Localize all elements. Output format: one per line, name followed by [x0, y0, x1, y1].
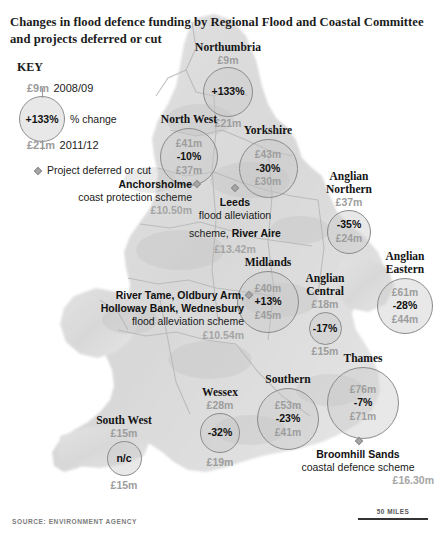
- region-anglian-northern-pct: -35%: [337, 218, 362, 232]
- region-midlands-pct: +13%: [254, 295, 281, 309]
- legend-before-row: £9m 2008/09: [27, 78, 93, 96]
- project-leeds-name: Leeds: [172, 196, 298, 209]
- region-northumbria-before: £9m: [182, 54, 274, 67]
- region-wessex-name: Wessex: [180, 386, 260, 399]
- region-thames-bubble: £76m -7% £71m: [327, 367, 399, 439]
- region-anglian-northern-name2: Northern: [312, 183, 386, 196]
- region-southern-name: Southern: [242, 373, 334, 386]
- legend-project-label: Project deferred or cut: [47, 164, 151, 176]
- region-yorkshire-bubble: £43m -30% £30m: [239, 139, 298, 198]
- region-southern-pct: -23%: [276, 412, 301, 426]
- region-thames-pct: -7%: [354, 396, 373, 410]
- legend-before-value: £9m: [27, 82, 49, 94]
- region-wessex-after: £19m: [180, 456, 260, 469]
- project-leeds[interactable]: Leeds flood alleviation scheme, River Ai…: [172, 196, 298, 256]
- region-anglian-eastern-before: £61m: [392, 286, 418, 299]
- legend-after-year: 2011/12: [60, 139, 99, 151]
- region-anglian-central-name2: Central: [290, 285, 360, 298]
- region-anglian-northern-name1: Anglian: [312, 170, 386, 183]
- region-thames-name: Thames: [317, 352, 409, 365]
- region-north-west-pct: -10%: [177, 150, 202, 164]
- project-anchorsholme-name: Anchorsholme: [42, 178, 192, 191]
- region-north-west-before: £41m: [176, 137, 202, 150]
- project-leeds-desc-line2: scheme, River Aire: [172, 222, 298, 242]
- region-anglian-eastern-pct: -28%: [393, 299, 418, 313]
- region-anglian-eastern-bubble: £61m -28% £44m: [377, 278, 433, 334]
- project-leeds-desc2: scheme,: [189, 227, 232, 239]
- map-scale-bar: 50 MILES: [358, 508, 428, 520]
- project-broomhill-desc: coastal defence scheme: [282, 461, 434, 474]
- project-broomhill-name: Broomhill Sands: [282, 448, 434, 461]
- region-northumbria-name: Northumbria: [182, 41, 274, 54]
- region-north-west-after: £37m: [176, 164, 202, 177]
- region-south-west-bubble: n/c: [107, 441, 142, 476]
- legend-pct-note: % change: [70, 113, 117, 125]
- region-wessex-before: £28m: [180, 399, 260, 412]
- region-anglian-northern-after: £24m: [336, 232, 362, 245]
- region-wessex-bubble: -32%: [200, 413, 240, 453]
- region-yorkshire-name: Yorkshire: [222, 124, 314, 137]
- region-anglian-eastern-name1: Anglian: [368, 250, 442, 263]
- project-leeds-river: River Aire: [232, 227, 281, 239]
- map-scale-label: 50 MILES: [358, 508, 428, 515]
- region-anglian-northern[interactable]: Anglian Northern £37m -35% £24m: [312, 170, 386, 254]
- map-scale-line: [358, 518, 428, 520]
- top-divider: [8, 8, 436, 10]
- region-midlands-after: £45m: [255, 309, 281, 322]
- project-broomhill-sands[interactable]: Broomhill Sands coastal defence scheme £…: [282, 448, 434, 488]
- region-yorkshire-pct: -30%: [256, 162, 281, 176]
- diamond-marker-icon: [34, 167, 42, 175]
- region-yorkshire-after: £30m: [255, 175, 281, 188]
- legend-after-value: £21m: [27, 139, 55, 151]
- project-river-tame[interactable]: River Tame, Oldbury Arm, Holloway Bank, …: [96, 289, 244, 342]
- project-river-tame-cost: £10.54m: [96, 329, 244, 342]
- legend-heading: KEY: [17, 60, 192, 75]
- project-leeds-desc1: flood alleviation: [172, 209, 298, 222]
- region-south-west[interactable]: South West £15m n/c £15m: [80, 414, 168, 492]
- region-anglian-eastern-after: £44m: [392, 313, 418, 326]
- infographic-canvas: Changes in flood defence funding by Regi…: [0, 0, 444, 541]
- region-yorkshire-before: £43m: [255, 148, 281, 161]
- project-anchorsholme-desc: coast protection scheme: [42, 191, 192, 204]
- legend-pct-value: +133%: [26, 113, 59, 125]
- region-anglian-central[interactable]: Anglian Central £18m -17% £15m: [290, 272, 360, 358]
- region-wessex[interactable]: Wessex £28m -32% £19m: [180, 386, 260, 469]
- region-midlands-before: £40m: [255, 282, 281, 295]
- legend-project-marker: Project deferred or cut: [35, 164, 151, 176]
- project-river-tame-name1: River Tame, Oldbury Arm,: [96, 289, 244, 302]
- legend-key: KEY £9m 2008/09 +133% % change £21m 2011…: [17, 60, 192, 75]
- legend-after-row: £21m 2011/12: [27, 135, 99, 153]
- region-thames-before: £76m: [350, 383, 376, 396]
- project-river-tame-desc: flood alleviation scheme: [96, 315, 244, 328]
- region-midlands-name: Midlands: [222, 256, 314, 269]
- region-anglian-northern-before: £37m: [312, 196, 386, 209]
- region-wessex-pct: -32%: [208, 426, 233, 440]
- region-anglian-central-name1: Anglian: [290, 272, 360, 285]
- legend-before-year: 2008/09: [53, 82, 93, 94]
- region-south-west-before: £15m: [80, 427, 168, 440]
- region-anglian-eastern[interactable]: Anglian Eastern £61m -28% £44m: [368, 250, 442, 334]
- region-anglian-central-bubble: -17%: [309, 312, 342, 345]
- project-river-tame-name2: Holloway Bank, Wednesbury: [96, 302, 244, 315]
- region-southern-before: £53m: [275, 399, 301, 412]
- region-thames-after: £71m: [350, 410, 376, 423]
- region-south-west-after: £15m: [80, 479, 168, 492]
- region-northumbria-pct: +133%: [212, 85, 245, 99]
- project-leeds-cost: £13.42m: [172, 243, 298, 256]
- region-southern-bubble: £53m -23% £41m: [257, 388, 319, 450]
- project-anchorsholme-cost: £10.50m: [42, 204, 192, 217]
- project-broomhill-cost: £16.30m: [282, 474, 434, 487]
- region-anglian-central-before: £18m: [290, 298, 360, 311]
- source-credit: SOURCE: ENVIRONMENT AGENCY: [12, 518, 137, 525]
- region-south-west-pct: n/c: [116, 452, 131, 466]
- project-anchorsholme[interactable]: Anchorsholme coast protection scheme £10…: [42, 178, 192, 218]
- region-anglian-central-pct: -17%: [313, 322, 338, 336]
- region-anglian-eastern-name2: Eastern: [368, 263, 442, 276]
- region-south-west-name: South West: [80, 414, 168, 427]
- region-southern-after: £41m: [275, 426, 301, 439]
- region-anglian-northern-bubble: -35% £24m: [327, 210, 371, 254]
- region-northumbria-bubble: +133%: [203, 67, 253, 117]
